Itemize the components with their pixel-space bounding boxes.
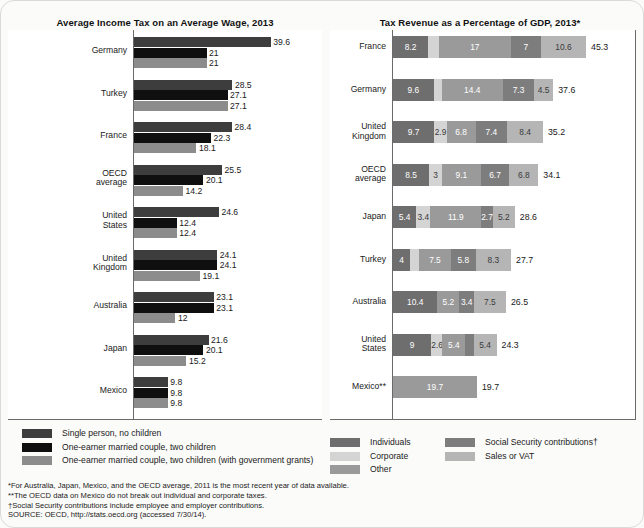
left-chart-bar <box>134 165 222 175</box>
figure-page: Average Income Tax on an Average Wage, 2… <box>0 0 644 528</box>
right-chart-total-value: 35.2 <box>548 121 565 143</box>
right-chart-category-label: United States <box>330 335 386 354</box>
left-chart-bar-value: 21 <box>209 58 219 68</box>
left-chart-legend-label: Single person, no children <box>62 428 161 439</box>
right-chart-category-label: OECD average <box>330 165 386 184</box>
left-chart-category-label: Germany <box>8 46 127 56</box>
left-chart-bar <box>134 313 175 323</box>
left-chart-bar <box>134 175 203 185</box>
right-chart-row: Germany9.614.47.34.537.6 <box>330 79 636 101</box>
right-chart-row: United States92.65.45.424.3 <box>330 334 636 356</box>
left-chart-bar-value: 39.6 <box>273 37 290 47</box>
right-chart-legend-item: Corporate <box>330 451 440 462</box>
left-chart-bar <box>134 303 214 313</box>
right-chart-legend-column-2: Social Security contributions†Sales or V… <box>445 437 635 464</box>
left-chart-bar-value: 23.1 <box>216 303 233 313</box>
left-chart-bar <box>134 48 207 58</box>
left-chart-legend-swatch <box>22 443 52 452</box>
left-chart-bar <box>134 356 186 366</box>
right-chart-legend-swatch <box>330 465 360 474</box>
left-chart-legend-label: One-earner married couple, two children <box>62 442 216 453</box>
left-chart-bar <box>134 143 196 153</box>
right-chart-row: Turkey47.55.88.327.7 <box>330 249 636 271</box>
right-chart-segment: 2.9 <box>434 121 446 143</box>
left-chart-row: Japan21.620.115.2 <box>8 332 322 375</box>
right-chart-legend-label: Individuals <box>370 437 411 448</box>
right-chart-category-label: Japan <box>330 212 386 222</box>
left-chart-bar-value: 20.1 <box>206 345 223 355</box>
right-chart-total-value: 27.7 <box>516 249 533 271</box>
left-chart-bar-value: 25.5 <box>225 165 242 175</box>
right-chart-legend-swatch <box>330 452 360 461</box>
right-chart-legend-label: Other <box>370 464 392 475</box>
left-chart-bar <box>134 58 207 68</box>
right-chart-row: Australia10.45.23.47.526.5 <box>330 291 636 313</box>
left-chart-category-label: United Kingdom <box>8 254 127 273</box>
left-chart-bar-value: 12 <box>178 313 188 323</box>
left-chart-category-label: Turkey <box>8 89 127 99</box>
right-chart-segment <box>410 249 419 271</box>
left-chart-bar <box>134 260 217 270</box>
left-chart-bar-value: 22.3 <box>213 133 230 143</box>
right-chart-segment: 7.5 <box>419 249 451 271</box>
left-chart-bar-value: 18.1 <box>199 143 216 153</box>
left-chart-bar-value: 12.4 <box>179 218 196 228</box>
left-chart-legend-item: Single person, no children <box>22 428 322 439</box>
left-chart-bar <box>134 335 209 345</box>
right-chart-segment: 3 <box>429 164 442 186</box>
right-chart-x-axis <box>330 419 636 420</box>
right-chart-legend-label: Corporate <box>370 451 408 462</box>
left-chart-legend-item: One-earner married couple, two children … <box>22 455 322 466</box>
left-chart-row: United Kingdom24.124.119.1 <box>8 247 322 290</box>
right-chart-category-label: United Kingdom <box>330 122 386 141</box>
footnote-line: SOURCE: OECD, http://stats.oecd.org (acc… <box>8 510 528 520</box>
right-chart-segment: 6.8 <box>509 164 538 186</box>
left-chart-bar-value: 19.1 <box>202 271 219 281</box>
left-chart-row: OECD average25.520.114.2 <box>8 162 322 205</box>
left-chart-row: Australia23.123.112 <box>8 289 322 332</box>
footnote-line: †Social Security contributions include e… <box>8 501 528 511</box>
right-chart-total-value: 34.1 <box>543 164 560 186</box>
left-chart-bar-value: 9.8 <box>170 398 182 408</box>
right-chart-segment: 7.3 <box>503 79 534 101</box>
left-chart-bar-value: 24.6 <box>221 207 238 217</box>
left-chart-bar-value: 14.2 <box>186 186 203 196</box>
right-chart-category-label: Turkey <box>330 255 386 265</box>
right-chart-segment: 7.4 <box>476 121 508 143</box>
right-chart-segment: 5.2 <box>437 291 459 313</box>
right-chart-segment: 5.4 <box>442 334 465 356</box>
right-chart-segment: 10.6 <box>541 36 586 58</box>
right-chart-plot-area: France8.217710.645.3Germany9.614.47.34.5… <box>330 30 636 420</box>
right-chart-segment: 4.5 <box>534 79 553 101</box>
right-chart-row: United Kingdom9.72.96.87.48.435.2 <box>330 121 636 143</box>
left-chart-bar <box>134 80 232 90</box>
right-chart-segment: 5.2 <box>493 206 515 228</box>
right-chart-total-value: 28.6 <box>520 206 537 228</box>
left-chart-bar-value: 27.1 <box>230 101 247 111</box>
left-chart-bar <box>134 90 228 100</box>
right-chart-segment: 9.6 <box>393 79 434 101</box>
left-chart-bar-value: 24.1 <box>220 250 237 260</box>
right-chart-segment <box>434 79 442 101</box>
left-chart-bar-value: 12.4 <box>179 228 196 238</box>
left-chart-bar-value: 28.4 <box>235 122 252 132</box>
right-chart-category-label: Germany <box>330 85 386 95</box>
right-chart-segment: 2.6 <box>431 334 442 356</box>
left-chart-bar <box>134 186 183 196</box>
right-chart-total-value: 37.6 <box>558 79 575 101</box>
left-chart-category-label: Japan <box>8 344 127 354</box>
right-chart-segment <box>428 36 439 58</box>
right-chart-row: Mexico**19.719.7 <box>330 376 636 398</box>
right-chart-segment: 2.7 <box>481 206 493 228</box>
left-chart-row: Turkey28.527.127.1 <box>8 77 322 120</box>
right-chart-segment: 4 <box>393 249 410 271</box>
right-chart-row: France8.217710.645.3 <box>330 36 636 58</box>
left-chart-row: France28.422.318.1 <box>8 119 322 162</box>
right-chart-segment: 8.2 <box>393 36 428 58</box>
left-chart-bar <box>134 37 271 47</box>
left-chart-bar <box>134 218 177 228</box>
left-chart-legend-swatch <box>22 429 52 438</box>
left-chart-bar <box>134 133 211 143</box>
left-chart-bar <box>134 122 232 132</box>
right-chart-segment: 3.4 <box>459 291 473 313</box>
